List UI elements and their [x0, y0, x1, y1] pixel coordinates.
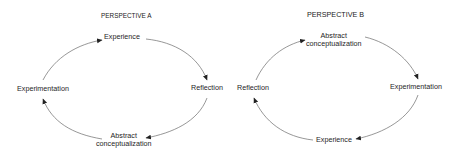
perspective-b-title: PERSPECTIVE B	[307, 10, 364, 19]
arrow-abstract-to-experimentation	[43, 99, 102, 139]
cycle-arrows	[0, 0, 460, 159]
node-reflection: Reflection	[191, 84, 223, 92]
node-abstract-line2: conceptualization	[96, 140, 152, 148]
arrow-reflection-to-abstract	[256, 40, 305, 80]
node-abstract-conceptualization: Abstract conceptualization	[306, 32, 362, 48]
node-abstract-line2: conceptualization	[306, 40, 362, 48]
node-experience: Experience	[316, 136, 352, 144]
arrow-experience-to-reflection	[254, 98, 313, 140]
node-experience: Experience	[104, 33, 140, 41]
node-abstract-conceptualization: Abstract conceptualization	[96, 132, 152, 148]
arrow-experimentation-to-experience	[356, 95, 418, 139]
arrow-experience-to-reflection	[146, 39, 207, 80]
arrow-abstract-to-experimentation	[365, 37, 418, 79]
node-reflection: Reflection	[237, 84, 269, 92]
perspective-a-title: PERSPECTIVE A	[101, 12, 151, 19]
arrow-reflection-to-abstract	[146, 98, 207, 138]
node-experimentation: Experimentation	[17, 85, 69, 93]
arrow-experimentation-to-experience	[43, 40, 102, 80]
node-experimentation: Experimentation	[390, 83, 442, 91]
